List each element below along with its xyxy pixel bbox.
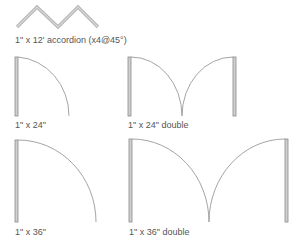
door-36-symbol [15,140,96,222]
accordion-door-symbol [17,7,98,27]
door-24-label: 1" x 24" [15,120,46,130]
door-36-double-symbol [129,139,288,222]
accordion-label: 1" x 12' accordion (x4@45°) [15,35,127,45]
door-24-symbol [15,57,69,116]
door-24-double-symbol [128,57,236,116]
door-36-label: 1" x 36" [15,227,46,237]
door-36-double-label: 1" x 36" double [129,227,189,237]
door-24-double-label: 1" x 24" double [128,120,188,130]
